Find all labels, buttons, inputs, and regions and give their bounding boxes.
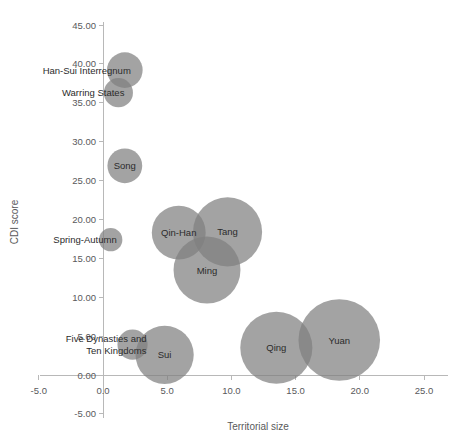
bubble-label: Ten Kingdoms	[86, 345, 146, 356]
x-tick-label: -5.0	[31, 385, 47, 396]
x-tick-label: 0.0	[96, 385, 109, 396]
bubble-label: Han-Sui Interregnum	[43, 65, 131, 76]
bubble-chart: -5.000.005.0010.0015.0020.0025.0030.0035…	[0, 0, 460, 444]
x-tick-label: 15.0	[286, 385, 305, 396]
bubble-label: Ming	[197, 265, 218, 276]
y-tick-label: 45.00	[72, 20, 96, 31]
bubble-label: Yuan	[328, 335, 350, 346]
bubble-label: Tang	[217, 226, 238, 237]
y-tick-label: 0.00	[78, 370, 97, 381]
chart-canvas: -5.000.005.0010.0015.0020.0025.0030.0035…	[0, 0, 460, 444]
y-tick-label: -5.00	[74, 408, 96, 419]
bubble-label: Warring States	[62, 87, 125, 98]
y-tick-label: 35.00	[72, 97, 96, 108]
x-tick-label: 5.0	[161, 385, 174, 396]
bubble-label: Qin-Han	[161, 227, 196, 238]
x-tick-label: 20.0	[351, 385, 370, 396]
x-tick-label: 10.0	[222, 385, 241, 396]
x-tick-label: 25.0	[415, 385, 434, 396]
y-tick-label: 10.00	[72, 292, 96, 303]
y-tick-label: 30.00	[72, 136, 96, 147]
y-tick-group: -5.000.005.0010.0015.0020.0025.0030.0035…	[72, 20, 103, 420]
bubble-label: Qing	[266, 342, 286, 353]
y-axis-title: CDI score	[9, 199, 20, 244]
bubble-label: Five Dynasties and	[66, 333, 147, 344]
bubble-label: Sui	[158, 349, 172, 360]
y-tick-label: 25.00	[72, 175, 96, 186]
bubble-label: Song	[114, 160, 136, 171]
y-tick-label: 15.00	[72, 253, 96, 264]
y-tick-label: 20.00	[72, 214, 96, 225]
bubble-label: Spring-Autumn	[53, 234, 116, 245]
x-axis-title: Territorial size	[227, 421, 289, 432]
